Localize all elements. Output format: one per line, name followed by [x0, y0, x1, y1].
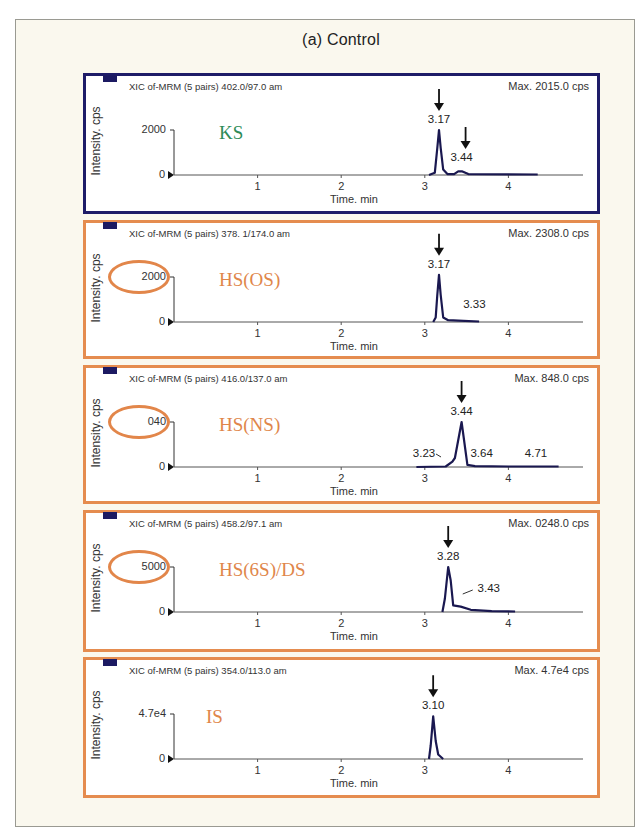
chromatogram-panel-hs-ns: XIC of-MRM (5 pairs) 416.0/137.0 am Max.… — [83, 365, 600, 504]
x-tick-label: 2 — [331, 764, 351, 776]
peak-arrow-icon — [428, 689, 438, 697]
x-tick-label: 4 — [498, 617, 518, 629]
x-tick-label: 1 — [248, 327, 268, 339]
peak-arrow-icon — [443, 540, 453, 548]
peak-label: 3.10 — [422, 699, 444, 711]
x-axis-title: Time. min — [330, 485, 378, 497]
chromatogram-trace — [429, 716, 443, 759]
x-tick-label: 4 — [498, 180, 518, 192]
peak-arrow-icon — [461, 141, 471, 149]
peak-label: 4.71 — [525, 447, 547, 459]
x-tick-label: 2 — [331, 180, 351, 192]
x-tick-label: 1 — [248, 764, 268, 776]
x-tick-label: 3 — [415, 764, 435, 776]
peak-label: 3.17 — [428, 113, 450, 125]
peak-label: 3.17 — [428, 258, 450, 270]
x-axis-title: Time. min — [330, 630, 378, 642]
peak-label: 3.23 — [413, 447, 435, 459]
peak-label: 3.44 — [450, 405, 472, 417]
x-tick-label: 2 — [331, 617, 351, 629]
peak-arrow-icon — [457, 395, 467, 403]
peak-label: 3.44 — [450, 151, 472, 163]
peak-arrow-icon — [434, 103, 444, 111]
x-tick-label: 1 — [248, 180, 268, 192]
chromatogram-panel-hs-os: XIC of-MRM (5 pairs) 378. 1/174.0 am Max… — [83, 220, 600, 359]
x-tick-label: 3 — [415, 180, 435, 192]
x-tick-label: 4 — [498, 764, 518, 776]
chromatogram-panel-ks: XIC of-MRM (5 pairs) 402.0/97.0 am Max. … — [83, 73, 600, 214]
chromatogram-trace — [416, 422, 558, 467]
x-tick-label: 1 — [248, 617, 268, 629]
figure-title: (a) Control — [0, 31, 639, 49]
x-axis-title: Time. min — [330, 193, 378, 205]
chromatogram-panel-is: XIC of-MRM (5 pairs) 354.0/113.0 am Max.… — [83, 657, 600, 798]
x-tick-label: 2 — [331, 327, 351, 339]
x-tick-label: 3 — [415, 472, 435, 484]
peak-arrow-icon — [434, 248, 444, 256]
chromatogram-trace — [429, 130, 538, 175]
x-tick-label: 3 — [415, 327, 435, 339]
x-tick-label: 4 — [498, 327, 518, 339]
peak-label: 3.28 — [437, 550, 459, 562]
peak-label: 3.33 — [463, 298, 485, 310]
chromatogram-panel-hs-6s-ds: XIC of-MRM (5 pairs) 458.2/97.1 am Max. … — [83, 510, 600, 652]
x-tick-label: 4 — [498, 472, 518, 484]
x-tick-label: 1 — [248, 472, 268, 484]
x-axis-title: Time. min — [330, 340, 378, 352]
x-axis-title: Time. min — [330, 777, 378, 789]
peak-label: 3.43 — [478, 582, 500, 594]
x-tick-label: 3 — [415, 617, 435, 629]
peak-label: 3.64 — [470, 447, 492, 459]
x-tick-label: 2 — [331, 472, 351, 484]
